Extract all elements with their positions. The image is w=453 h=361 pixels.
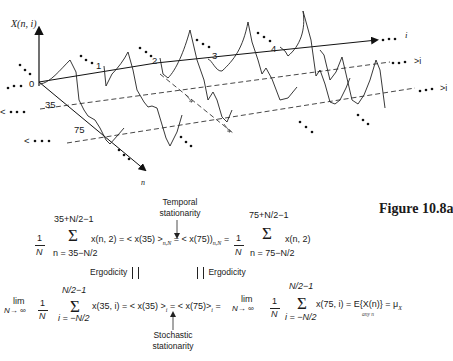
realization-curve — [208, 22, 297, 100]
sum-upper-limit-right: N/2−1 — [289, 281, 313, 291]
realization-curve — [280, 11, 350, 104]
sigma-icon: Σ — [68, 226, 78, 246]
middle-text: = < x(75) — [174, 234, 210, 244]
fraction-numerator-right: 1 — [272, 296, 277, 306]
n-axis-label: n — [141, 178, 145, 187]
sigma-icon: Σ — [297, 294, 307, 314]
annotation-line: stationarity — [147, 208, 213, 219]
annotation-line: stationarity — [142, 341, 204, 352]
temporal-summand-left: x(n, 2) = < x(35) >n,N = < x(75))n,N = — [91, 234, 229, 246]
realization-label-3: 3 — [212, 50, 217, 61]
sum-lower-limit: n = 35−N/2 — [53, 248, 98, 258]
realization-label-2: 2 — [152, 55, 157, 66]
origin-label: 0 — [29, 78, 34, 89]
subscript: n,N — [163, 240, 172, 246]
fraction-numerator-right: 1 — [236, 233, 241, 243]
stochastic-stationarity-annotation: Stochastic stationarity — [142, 330, 204, 352]
fraction-bar — [35, 245, 45, 246]
stochastic-summand-left: x(35, i) = < x(35) >i = < x(75)>i = — [92, 301, 221, 313]
realization-label-1: 1 — [96, 60, 101, 71]
summand-text: x(75, i) = E{X(n)} = μ — [316, 299, 398, 309]
ellipsis-dots — [7, 32, 434, 161]
fraction-numerator: 1 — [37, 233, 42, 243]
subscript: i — [211, 307, 213, 313]
ergodicity-right: Ergodicity — [197, 267, 246, 279]
sum-lower-limit-right: i = −N/2 — [285, 312, 317, 322]
realization-label-4: 4 — [271, 43, 276, 54]
realization-curve — [320, 50, 385, 108]
vertical-axis-label: X(n, i) — [11, 18, 37, 29]
subscript: X — [398, 305, 402, 311]
fraction-numerator: 1 — [40, 298, 45, 308]
ergodicity-label: Ergodicity — [90, 267, 127, 277]
double-bar-icon — [197, 267, 204, 279]
figure-caption: Figure 10.8a — [379, 201, 453, 217]
fraction-denominator: N — [39, 311, 46, 321]
summand-text: x(n, 2) = < x(35) > — [91, 234, 163, 244]
n35-label: 35 — [45, 99, 56, 110]
fraction-denominator-right: N — [271, 309, 278, 319]
realization-curve — [160, 30, 232, 122]
any-n-label: any n — [362, 311, 374, 317]
limit-subscript-right: N→ ∞ — [232, 304, 254, 313]
annotation-line: Stochastic — [142, 330, 204, 341]
fraction-denominator: N — [36, 247, 43, 257]
sum-upper-limit: 35+N/2−1 — [54, 214, 94, 224]
temporal-stationarity-annotation: Temporal stationarity — [147, 197, 213, 219]
n-axis — [39, 82, 145, 170]
annotation-line: Temporal — [147, 197, 213, 208]
equals-sign: = — [215, 301, 220, 311]
left-marker-n75: < — [24, 135, 30, 146]
arrow-up-icon — [168, 310, 178, 330]
sum-lower-limit: i = −N/2 — [58, 313, 90, 323]
sum-lower-limit-right: n = 75−N/2 — [250, 248, 295, 258]
fraction-denominator-right: N — [235, 247, 242, 257]
equals-sign: = — [224, 234, 229, 244]
dashed-line-label-n35: >i — [414, 56, 421, 66]
limit-label: lim — [13, 296, 25, 306]
dashed-line-i2 — [160, 74, 233, 133]
sum-upper-limit-right: 75+N/2−1 — [249, 210, 289, 220]
temporal-summand-right: x(n, 2) — [285, 234, 311, 244]
i-axis-label: i — [405, 30, 408, 40]
fraction-bar-right — [234, 245, 244, 246]
limit-label-right: lim — [241, 294, 253, 304]
summand-text: x(35, i) = < x(35) > — [92, 301, 166, 311]
limit-subscript: N→ ∞ — [4, 306, 26, 315]
double-bar-icon — [132, 267, 139, 279]
subscript: n,N — [213, 240, 222, 246]
n75-label: 75 — [74, 124, 85, 135]
sum-upper-limit: N/2−1 — [62, 285, 86, 295]
middle-text: < x(75)> — [178, 301, 212, 311]
ergodicity-left: Ergodicity — [90, 267, 139, 279]
dashed-line-label-n75: >i — [440, 83, 447, 93]
ergodicity-label: Ergodicity — [208, 267, 245, 277]
sigma-icon: Σ — [262, 224, 272, 244]
stochastic-summand-right: x(75, i) = E{X(n)} = μX — [316, 299, 402, 311]
left-marker-n35: < — [0, 106, 6, 117]
